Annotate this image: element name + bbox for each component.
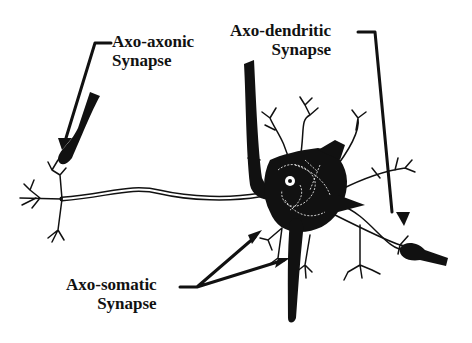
axo-dendritic-leader (358, 32, 392, 212)
axo-dendritic-arrowhead (396, 212, 410, 226)
label-axo-dendritic: Axo-dendritic Synapse (230, 21, 331, 59)
label-axo-axonic-line2: Synapse (112, 51, 194, 70)
label-axo-axonic: Axo-axonic Synapse (112, 32, 194, 70)
axo-dendritic-terminal (400, 243, 448, 266)
axon-terminals (20, 160, 66, 242)
label-axo-axonic-line1: Axo-axonic (112, 32, 194, 51)
axo-axonic-leader (66, 43, 111, 138)
axo-somatic-leader (180, 237, 284, 287)
label-axo-dendritic-line1: Axo-dendritic (230, 21, 331, 40)
label-axo-dendritic-line2: Synapse (230, 40, 331, 59)
label-axo-somatic-line2: Synapse (66, 294, 157, 313)
synapse-diagram: Axo-axonic Synapse Axo-dendritic Synapse… (0, 0, 472, 343)
axo-somatic-terminal (288, 218, 303, 323)
axo-axonic-terminal (58, 92, 100, 164)
label-axo-somatic: Axo-somatic Synapse (66, 275, 157, 313)
label-axo-somatic-line1: Axo-somatic (66, 275, 157, 294)
